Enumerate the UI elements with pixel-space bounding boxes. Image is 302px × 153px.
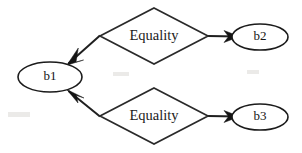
edge-equality-bottom-to-b1	[67, 90, 100, 117]
node-b3[interactable]: b3	[232, 104, 288, 130]
equality-relation-diagram: b1 b2 b3 Equality Equality	[0, 0, 302, 153]
node-b3-label: b3	[254, 108, 267, 123]
node-b2[interactable]: b2	[232, 24, 288, 50]
edge-equality-top-to-b1	[67, 36, 100, 66]
node-b1[interactable]: b1	[18, 62, 82, 92]
diagram-canvas: b1 b2 b3 Equality Equality	[0, 0, 302, 153]
node-b2-label: b2	[254, 28, 267, 43]
relation-equality-top[interactable]: Equality	[100, 8, 208, 64]
relation-equality-bottom[interactable]: Equality	[100, 88, 208, 144]
node-b1-label: b1	[44, 68, 57, 83]
relation-equality-bottom-label: Equality	[129, 107, 179, 123]
arrow-head-top-to-b1	[67, 48, 84, 65]
relation-equality-top-label: Equality	[129, 27, 179, 43]
